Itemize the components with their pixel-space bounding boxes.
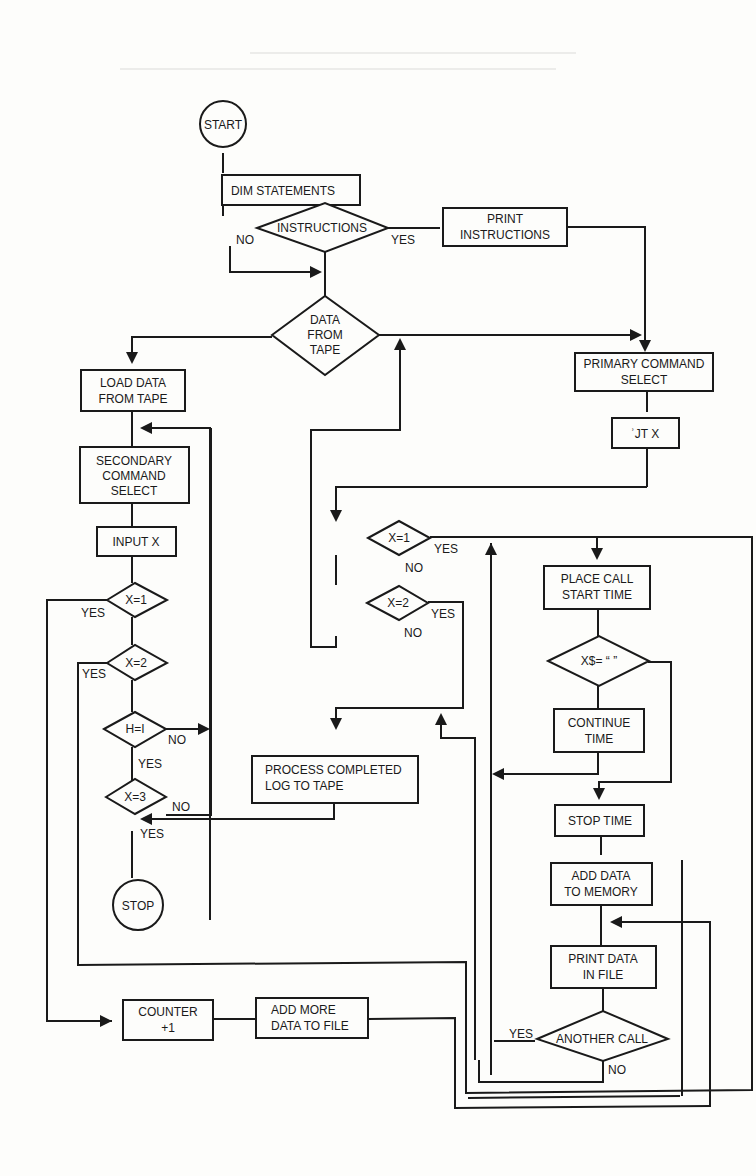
- data-from-tape-decision: DATA FROM TAPE: [272, 296, 379, 375]
- arrow-down-icon: [330, 510, 342, 522]
- arrow-down-icon: [591, 548, 603, 560]
- left-x-equals-1-decision: X=1 YES: [81, 583, 167, 620]
- arrow-left-icon: [140, 813, 152, 825]
- svg-text:SELECT: SELECT: [111, 484, 158, 498]
- svg-text:YES: YES: [434, 542, 458, 556]
- svg-text:SECONDARY: SECONDARY: [96, 454, 172, 468]
- svg-text:YES: YES: [431, 607, 455, 621]
- svg-text:ADD DATA: ADD DATA: [572, 869, 631, 883]
- svg-text:X$= “ ”: X$= “ ”: [581, 654, 617, 668]
- arrow-left-icon: [492, 768, 504, 780]
- svg-text:NO: NO: [608, 1063, 626, 1077]
- svg-text:PLACE CALL: PLACE CALL: [561, 572, 634, 586]
- svg-text:PRIMARY COMMAND: PRIMARY COMMAND: [584, 357, 705, 371]
- svg-text:START: START: [204, 118, 243, 132]
- svg-text:ADD MORE: ADD MORE: [271, 1003, 336, 1017]
- dim-statements-box: DIM STATEMENTS: [222, 175, 360, 205]
- arrow-down-icon: [593, 788, 605, 800]
- svg-text:X=2: X=2: [387, 596, 409, 610]
- input-x-box-left: INPUT X: [97, 527, 176, 556]
- load-data-from-tape-box: LOAD DATA FROM TAPE: [81, 370, 185, 411]
- stop-time-box: STOP TIME: [555, 805, 644, 836]
- svg-text:NO: NO: [236, 233, 254, 247]
- svg-text:NO: NO: [404, 626, 422, 640]
- svg-text:H=I: H=I: [125, 722, 144, 736]
- h-equals-i-decision: H=I NO YES: [104, 712, 186, 771]
- start-terminal: START: [200, 101, 246, 147]
- svg-text:X=1: X=1: [388, 531, 410, 545]
- arrow-left-icon: [610, 916, 622, 928]
- svg-text:INSTRUCTIONS: INSTRUCTIONS: [460, 228, 550, 242]
- bleed-through-line: [120, 68, 556, 70]
- svg-text:DATA TO FILE: DATA TO FILE: [271, 1019, 349, 1033]
- print-data-in-file-box: PRINT DATA IN FILE: [551, 946, 656, 988]
- primary-command-select-box: PRIMARY COMMAND SELECT: [575, 353, 713, 391]
- print-instructions-box: PRINT INSTRUCTIONS: [443, 208, 567, 246]
- svg-text:FROM TAPE: FROM TAPE: [99, 392, 168, 406]
- svg-text:NO: NO: [168, 733, 186, 747]
- svg-text:TAPE: TAPE: [310, 343, 340, 357]
- svg-text:FROM: FROM: [307, 328, 342, 342]
- svg-text:SELECT: SELECT: [621, 373, 668, 387]
- svg-text:NO: NO: [405, 561, 423, 575]
- instructions-decision: INSTRUCTIONS NO YES: [236, 203, 415, 252]
- svg-text:YES: YES: [509, 1027, 533, 1041]
- place-call-start-time-box: PLACE CALL START TIME: [544, 566, 650, 609]
- svg-text:X=1: X=1: [125, 593, 147, 607]
- arrow-right-icon: [198, 723, 210, 735]
- svg-text:PRINT: PRINT: [487, 212, 524, 226]
- svg-text:COMMAND: COMMAND: [102, 469, 166, 483]
- svg-text:START TIME: START TIME: [562, 588, 632, 602]
- svg-text:YES: YES: [140, 827, 164, 841]
- svg-text:LOAD DATA: LOAD DATA: [100, 376, 166, 390]
- svg-text:IN FILE: IN FILE: [583, 968, 624, 982]
- svg-text:DIM STATEMENTS: DIM STATEMENTS: [231, 184, 335, 198]
- bleed-through-line: [250, 52, 576, 54]
- svg-text:INSTRUCTIONS: INSTRUCTIONS: [277, 221, 367, 235]
- x-string-empty-decision: X$= “ ”: [548, 636, 649, 686]
- arrow-right-icon: [310, 266, 322, 278]
- arrow-down-icon: [639, 340, 651, 352]
- arrow-right-icon: [630, 329, 642, 341]
- flowchart-canvas: START DIM STATEMENTS INSTRUCTIONS NO YES…: [0, 0, 756, 1176]
- left-x-equals-3-decision: X=3 NO YES: [106, 779, 190, 841]
- secondary-command-select-box: SECONDARY COMMAND SELECT: [80, 447, 189, 503]
- svg-text:PROCESS COMPLETED: PROCESS COMPLETED: [265, 763, 402, 777]
- svg-text:TIME: TIME: [585, 732, 614, 746]
- svg-text:COUNTER: COUNTER: [138, 1005, 198, 1019]
- svg-text:YES: YES: [391, 233, 415, 247]
- svg-text:+1: +1: [161, 1021, 175, 1035]
- continue-time-box: CONTINUE TIME: [554, 709, 644, 752]
- input-x-box-right: ʾJT X: [612, 418, 679, 448]
- arrow-up-icon: [394, 338, 406, 350]
- svg-text:STOP TIME: STOP TIME: [568, 814, 632, 828]
- center-x-equals-1-decision: X=1 YES NO: [368, 521, 458, 575]
- svg-text:TO MEMORY: TO MEMORY: [564, 885, 638, 899]
- svg-text:YES: YES: [81, 606, 105, 620]
- svg-text:ʾJT X: ʾJT X: [631, 427, 659, 441]
- svg-text:YES: YES: [82, 667, 106, 681]
- svg-text:YES: YES: [138, 757, 162, 771]
- arrow-right-icon: [100, 1015, 112, 1027]
- svg-text:PRINT DATA: PRINT DATA: [568, 952, 637, 966]
- svg-text:DATA: DATA: [310, 313, 340, 327]
- svg-text:LOG TO TAPE: LOG TO TAPE: [265, 779, 343, 793]
- svg-text:STOP: STOP: [122, 899, 154, 913]
- flowchart: START DIM STATEMENTS INSTRUCTIONS NO YES…: [0, 0, 756, 1176]
- process-completed-box: PROCESS COMPLETED LOG TO TAPE: [252, 756, 418, 803]
- stop-terminal: STOP: [113, 880, 163, 930]
- svg-text:INPUT X: INPUT X: [112, 535, 159, 549]
- add-data-to-memory-box: ADD DATA TO MEMORY: [551, 863, 652, 905]
- center-x-equals-2-decision: X=2 YES NO: [367, 586, 455, 640]
- arrow-down-icon: [330, 718, 342, 730]
- arrow-up-icon: [435, 713, 447, 725]
- arrow-left-icon: [140, 422, 152, 434]
- svg-text:NO: NO: [172, 800, 190, 814]
- svg-text:X=3: X=3: [124, 790, 146, 804]
- counter-plus-one-box: COUNTER +1: [123, 1000, 213, 1040]
- svg-text:X=2: X=2: [125, 656, 147, 670]
- arrow-down-icon: [126, 352, 138, 364]
- svg-text:CONTINUE: CONTINUE: [568, 716, 631, 730]
- add-more-data-to-file-box: ADD MORE DATA TO FILE: [256, 998, 368, 1038]
- svg-text:ANOTHER CALL: ANOTHER CALL: [556, 1032, 648, 1046]
